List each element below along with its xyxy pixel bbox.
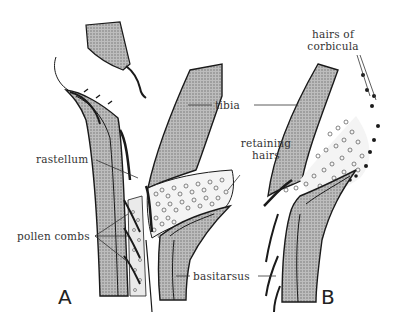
label-retaining-hairs-line2: hairs <box>231 149 301 161</box>
label-retaining-hairs: retaining hairs <box>231 137 301 161</box>
tibia-fragment-a <box>86 22 130 70</box>
basitarsus-a <box>66 90 128 296</box>
label-retaining-hairs-line1: retaining <box>231 137 301 149</box>
label-hairs-of-corbicula-line1: hairs of <box>303 28 363 40</box>
label-basitarsus: basitarsus <box>193 270 250 282</box>
panel-b-drawing <box>264 64 380 312</box>
label-hairs-of-corbicula: hairs of corbicula <box>303 28 363 52</box>
label-rastellum: rastellum <box>36 153 88 165</box>
panel-label-a: A <box>58 285 72 309</box>
basitarsus-b <box>282 170 356 302</box>
label-pollen-combs: pollen combs <box>17 230 90 242</box>
label-tibia: tibia <box>215 99 240 111</box>
label-hairs-of-corbicula-line2: corbicula <box>303 40 363 52</box>
tibia-a <box>148 64 222 188</box>
panel-label-b: B <box>321 285 335 309</box>
panel-a-drawing <box>55 22 234 312</box>
